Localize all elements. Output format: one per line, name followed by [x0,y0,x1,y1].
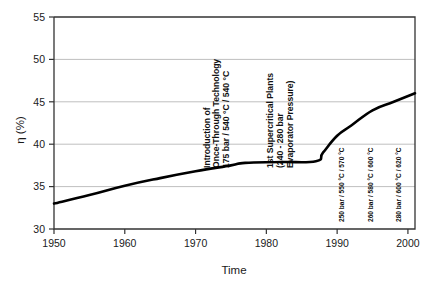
annotation-supercritical-line-1: 1st Supercritical Plants [265,73,275,168]
x-tick-label-1950: 1950 [42,237,66,249]
y-tick-label-35: 35 [33,180,45,192]
annotation-once-through-line-3: 175 bar / 540 °C / 540 °C [221,71,231,168]
annotation-supercritical-line-3: Evaporator Pressure) [285,80,295,168]
y-tick-label-30: 30 [33,223,45,235]
y-tick-label-40: 40 [33,138,45,150]
annotation-plant-260bar-line-1: 260 bar / 580 °C / 600 °C [367,147,374,222]
x-tick-label-1980: 1980 [255,237,279,249]
y-axis-title: η (%) [14,116,26,144]
x-tick-label-1990: 1990 [325,237,349,249]
annotation-plant-280bar-line-1: 280 bar / 600 °C / 620 °C [395,147,402,222]
annotation-plant-250bar-line-1: 250 bar / 550 °C / 570 °C [338,147,345,222]
x-tick-label-1970: 1970 [184,237,208,249]
x-axis-title: Time [221,264,246,276]
annotation-supercritical-line-2: (240 - 280 bar [275,112,285,168]
annotation-once-through-line-2: Once-Through Technology [211,59,221,168]
x-tick-label-1960: 1960 [113,237,137,249]
chart-svg: 303540455055 195019601970198019902000 η … [0,0,431,288]
efficiency-vs-time-chart: 303540455055 195019601970198019902000 η … [0,0,431,288]
annotation-once-through-line-1: Introduction of [202,107,212,168]
x-tick-label-2000: 2000 [396,237,420,249]
y-tick-label-50: 50 [33,53,45,65]
y-tick-label-45: 45 [33,96,45,108]
y-tick-label-55: 55 [33,11,45,23]
